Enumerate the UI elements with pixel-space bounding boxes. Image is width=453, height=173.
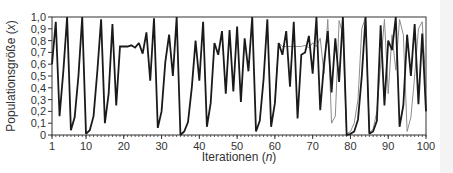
y-axis-title-text: Populationsgröße ( [4,30,18,131]
y-tick-label: 0,8 [31,35,46,47]
y-axis-title-close: ) [4,20,18,24]
x-tick-label: 10 [80,140,92,152]
x-tick-label: 20 [118,140,130,152]
x-axis-title-close: ) [272,150,276,164]
y-tick-label: 0,5 [31,70,46,82]
x-tick-label: 1 [49,140,55,152]
x-axis-title-text: Iterationen ( [202,150,266,164]
y-tick-label: 0,2 [31,105,46,117]
y-tick-label: 0 [40,129,46,141]
x-tick-label: 30 [155,140,167,152]
y-tick-label: 0,7 [31,46,46,58]
y-axis-title: Populationsgröße (x) [4,20,18,131]
x-tick-label: 80 [344,140,356,152]
x-tick-label: 100 [417,140,435,152]
y-tick-label: 0,1 [31,117,46,129]
x-axis-title: Iterationen (n) [202,150,277,164]
y-tick-label: 0,3 [31,94,46,106]
y-tick-label: 0,4 [31,82,46,94]
y-tick-label: 0,6 [31,58,46,70]
y-tick-label: 1,0 [31,11,46,23]
x-tick-label: 90 [382,140,394,152]
logistic-map-chart: 00,10,20,30,40,50,60,70,80,91,0 11020304… [0,0,453,173]
y-axis: 00,10,20,30,40,50,60,70,80,91,0 [31,11,52,141]
plot-area [52,17,426,135]
page-edge [440,0,453,173]
y-tick-label: 0,9 [31,23,46,35]
x-tick-label: 70 [307,140,319,152]
